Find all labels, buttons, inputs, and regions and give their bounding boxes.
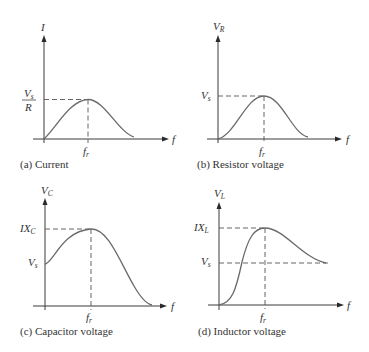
resonance-response-diagram: I f Vs R fr (a) Current VR f Vs fr (b) R…: [0, 0, 369, 352]
x-axis-label: f: [171, 300, 176, 312]
resonance-label: fr: [260, 311, 266, 325]
level-label-denominator: R: [24, 101, 32, 113]
caption-a: (a) Current: [20, 158, 69, 171]
level-label-vs: Vs: [201, 255, 211, 269]
resonance-label: fr: [259, 145, 265, 159]
inductor-voltage-curve: [219, 228, 326, 305]
capacitor-voltage-curve: [45, 229, 152, 305]
level-label-vs: Vs: [28, 256, 38, 270]
level-label-vs: Vs: [201, 89, 211, 103]
arrow-right-icon: [160, 304, 167, 309]
panel-c-capacitor-voltage: VC f IXC Vs fr (c) Capacitor voltage: [19, 184, 176, 338]
arrow-up-icon: [42, 35, 47, 42]
arrow-up-icon: [217, 202, 222, 209]
y-axis-label: VR: [213, 20, 225, 34]
arrow-right-icon: [337, 303, 344, 308]
y-axis-label: I: [40, 21, 46, 33]
resonance-label: fr: [86, 311, 92, 325]
panel-a-current: I f Vs R fr (a) Current: [20, 21, 177, 171]
panel-b-resistor-voltage: VR f Vs fr (b) Resistor voltage: [197, 20, 351, 171]
level-label-numerator: Vs: [24, 87, 34, 101]
caption-c: (c) Capacitor voltage: [20, 325, 113, 338]
x-axis-label: f: [172, 133, 177, 145]
x-axis-label: f: [346, 133, 351, 145]
level-label-ixc: IXC: [19, 222, 36, 236]
arrow-right-icon: [335, 137, 342, 142]
y-axis-label: VC: [41, 184, 54, 198]
level-label-ixl: IXL: [193, 221, 209, 235]
caption-b: (b) Resistor voltage: [197, 158, 284, 171]
x-axis-label: f: [347, 299, 352, 311]
caption-d: (d) Inductor voltage: [198, 325, 286, 338]
y-axis-label: VL: [214, 187, 225, 201]
resistor-voltage-curve: [218, 96, 308, 139]
arrow-right-icon: [162, 137, 169, 142]
panel-d-inductor-voltage: VL f IXL Vs fr (d) Inductor voltage: [193, 187, 352, 338]
arrow-up-icon: [43, 198, 48, 205]
arrow-up-icon: [216, 35, 221, 42]
resonance-label: fr: [83, 145, 89, 159]
current-curve: [44, 99, 134, 139]
